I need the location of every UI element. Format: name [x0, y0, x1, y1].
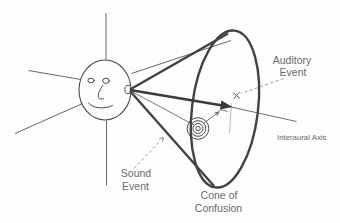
auditory-event-label-line1: Auditory	[273, 54, 312, 66]
auditory-event-leader-line	[241, 79, 284, 94]
x-mark-icon	[233, 92, 240, 99]
interaural-axis-label: Interaural Axis	[277, 133, 327, 142]
sound-event-leader-arrowhead-icon	[159, 138, 163, 142]
sound-source-ring-2	[193, 124, 203, 134]
direction-line-lower-left	[15, 104, 83, 134]
cone-of-confusion-label-line1: Cone of	[201, 189, 238, 201]
head-outline	[79, 60, 131, 120]
cone-of-confusion-figure: Auditory Event Interaural Axis Sound Eve…	[0, 0, 340, 223]
concentric-circles-icon	[187, 118, 209, 140]
sound-event-label-line1: Sound	[121, 167, 152, 179]
source-projection-arrow	[204, 110, 228, 124]
sound-source-ring-1	[196, 126, 200, 130]
cone-of-confusion-label-line2: Confusion	[195, 202, 242, 214]
main-arrow-head	[220, 101, 233, 110]
cone-of-confusion-drawing: Auditory Event Interaural Axis Sound Eve…	[0, 0, 340, 223]
direction-line-upper-right	[132, 41, 232, 74]
sound-event-label-line2: Event	[122, 180, 149, 192]
direction-line-upper-left	[29, 71, 82, 80]
cone-upper-edge	[130, 34, 228, 90]
auditory-event-label-line2: Event	[280, 66, 307, 78]
sound-event-leader-line	[134, 141, 161, 169]
smiley-face-head-icon	[79, 60, 131, 120]
sound-event-leader	[134, 138, 164, 169]
